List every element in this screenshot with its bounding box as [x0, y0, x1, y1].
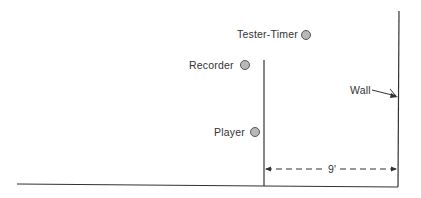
recorder-marker: [240, 60, 250, 70]
player-label: Player: [214, 126, 245, 138]
floor-line: [17, 184, 264, 186]
tester-timer-label: Tester-Timer: [237, 28, 298, 40]
distance-label: 9': [328, 163, 336, 175]
wall-line: [398, 11, 399, 187]
floor-line-right: [264, 186, 398, 187]
diagram-lines: [0, 0, 421, 198]
dimension-arrowhead-left-icon: [265, 167, 271, 172]
player-marker: [250, 127, 260, 137]
wall-label: Wall: [350, 84, 371, 96]
recorder-label: Recorder: [189, 59, 234, 71]
dimension-arrowhead-right-icon: [391, 167, 397, 172]
tester-timer-marker: [301, 30, 311, 40]
